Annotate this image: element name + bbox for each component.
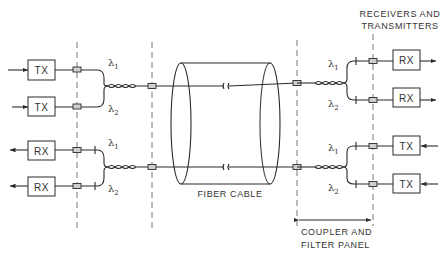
- connector-icon: [369, 98, 377, 103]
- svg-text:λ1: λ1: [328, 142, 339, 156]
- rx-label: RX: [34, 182, 49, 193]
- fiber-branch-1: [55, 70, 108, 86]
- svg-text:λ1: λ1: [108, 137, 119, 151]
- fiber-branch-1: [55, 150, 108, 167]
- connector-icon: [369, 182, 377, 187]
- tx-label: TX: [400, 179, 414, 190]
- connector-icon: [73, 148, 81, 153]
- fiber-branch-2: [343, 167, 393, 184]
- fused-coupler-icon: [315, 166, 343, 169]
- coupler-filter-panel-label-line1: COUPLER AND: [301, 227, 372, 237]
- tx-label: TX: [35, 65, 49, 76]
- fused-coupler-icon: [108, 166, 136, 169]
- receivers-transmitters-label-line1: RECEIVERS AND: [360, 9, 441, 19]
- rx-label: RX: [399, 55, 414, 66]
- rx-label: RX: [399, 93, 414, 104]
- fiber-branch-1: [343, 146, 393, 167]
- svg-text:λ1: λ1: [108, 57, 119, 71]
- tx-label: TX: [35, 102, 49, 113]
- left-rx-group: RX RX λ1 λ2: [10, 137, 175, 197]
- fused-coupler-icon: [315, 82, 343, 85]
- rx-label: RX: [34, 146, 49, 157]
- fiber-branch-2: [55, 167, 108, 186]
- svg-text:λ1: λ1: [328, 58, 339, 72]
- receivers-transmitters-label-line2: TRANSMITTERS: [361, 21, 438, 31]
- coupler-filter-panel-label-line2: FILTER PANEL: [301, 240, 370, 250]
- svg-text:λ2: λ2: [328, 98, 339, 112]
- connector-icon: [73, 184, 81, 189]
- connector-icon: [148, 165, 156, 170]
- connector-icon: [369, 144, 377, 149]
- fiber-cable: FIBER CABLE: [171, 63, 297, 199]
- fiber-cable-label: FIBER CABLE: [197, 189, 262, 199]
- fiber-branch-2: [343, 83, 393, 100]
- fiber-branch-2: [55, 86, 108, 107]
- connector-icon: [73, 104, 81, 109]
- fiber-branch-1: [343, 61, 393, 83]
- cable-end-right: [270, 63, 280, 184]
- connector-icon: [369, 59, 377, 64]
- connector-icon: [73, 67, 81, 72]
- fused-coupler-icon: [108, 85, 136, 88]
- wdm-diagram: TX TX λ1 λ2 RX RX λ1 λ2: [0, 0, 447, 255]
- svg-text:λ2: λ2: [108, 183, 119, 197]
- svg-text:λ2: λ2: [328, 182, 339, 196]
- tx-label: TX: [400, 141, 414, 152]
- cable-end-left: [171, 63, 191, 184]
- right-tx-group: λ1 λ2 TX TX: [293, 136, 438, 196]
- right-rx-group: λ1 λ2 RX RX: [293, 50, 436, 112]
- left-tx-group: TX TX λ1 λ2: [8, 57, 175, 117]
- svg-text:λ2: λ2: [108, 103, 119, 117]
- connector-icon: [148, 84, 156, 89]
